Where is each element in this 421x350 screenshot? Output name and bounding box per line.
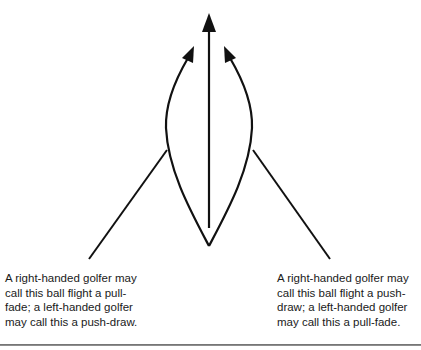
right-caption: A right-handed golfer may call this ball… bbox=[277, 271, 419, 329]
left-leader-line bbox=[89, 150, 167, 259]
right-leader-line bbox=[253, 150, 330, 259]
right-curve-arrowhead-icon bbox=[224, 46, 236, 63]
right-curve-flight-path bbox=[209, 58, 252, 246]
straight-flight-arrowhead-icon bbox=[202, 13, 216, 32]
left-caption: A right-handed golfer may call this ball… bbox=[5, 271, 145, 329]
left-curve-arrowhead-icon bbox=[182, 46, 194, 63]
bottom-divider bbox=[0, 344, 421, 346]
left-curve-flight-path bbox=[166, 58, 209, 246]
